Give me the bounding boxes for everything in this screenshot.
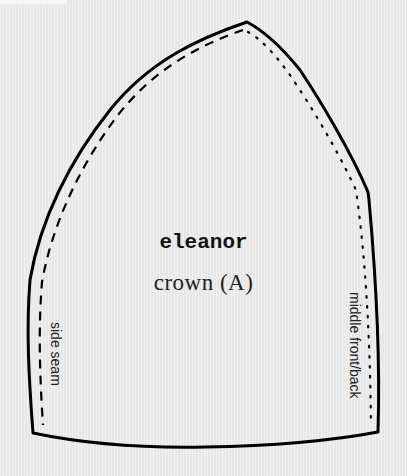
- middle-front-back-label: middle front/back: [347, 292, 363, 399]
- piece-label: crown (A): [0, 270, 407, 296]
- side-seam-dashed-line: [40, 30, 243, 425]
- side-seam-label: side seam: [48, 322, 64, 386]
- pattern-name: eleanor: [0, 231, 407, 254]
